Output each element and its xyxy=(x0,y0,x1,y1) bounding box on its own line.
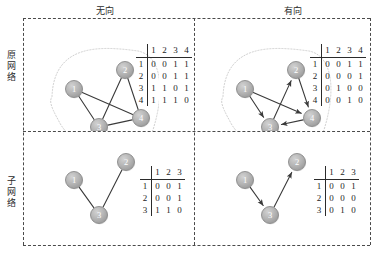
row-header-sub-network: 子 网 络 xyxy=(4,176,18,209)
matrix-column-header: 3 xyxy=(174,166,185,180)
matrix-cell: 0 xyxy=(322,82,334,94)
matrix-column-header: 2 xyxy=(163,166,174,180)
matrix-cell: 0 xyxy=(355,94,366,106)
column-header-undirected: 无向 xyxy=(60,4,150,17)
graph-node: 4 xyxy=(304,110,322,128)
row-header-original-char-2: 络 xyxy=(4,72,18,83)
matrix-cell: 1 xyxy=(159,82,170,94)
graph-edge xyxy=(79,97,94,120)
node-label: 1 xyxy=(243,84,247,94)
matrix-column-header: 1 xyxy=(326,166,338,180)
matrix-cell: 0 xyxy=(355,82,366,94)
matrix-row-header: 3 xyxy=(310,82,322,94)
matrix-column-header: 3 xyxy=(348,166,359,180)
matrix-cell: 0 xyxy=(174,204,185,216)
matrix-row: 30100 xyxy=(310,82,366,94)
matrix-cell: 1 xyxy=(337,204,348,216)
frame-border-right xyxy=(370,18,371,245)
matrix-cell: 0 xyxy=(337,180,348,193)
matrix-cell: 0 xyxy=(152,180,164,193)
matrix-cell: 0 xyxy=(148,58,160,71)
graph-node: 4 xyxy=(133,110,151,128)
node-label: 3 xyxy=(97,210,101,220)
graph-node: 3 xyxy=(262,207,280,225)
matrix-cell: 0 xyxy=(152,192,164,204)
matrix-cell: 1 xyxy=(181,58,192,71)
matrix-column-header: 3 xyxy=(344,44,355,58)
matrix-cell: 0 xyxy=(326,192,338,204)
matrix-cell: 1 xyxy=(152,204,164,216)
graph-node: 2 xyxy=(289,154,307,172)
matrix-row: 41110 xyxy=(136,94,192,106)
frame-divider-vertical xyxy=(194,18,195,245)
frame-border-bottom xyxy=(23,245,370,246)
matrix-column-header: 4 xyxy=(355,44,366,58)
matrix-row-header: 2 xyxy=(140,192,152,204)
figure-network-adjacency-matrices: 无向 有向 原 网 络 子 网 络 1234 1234 123 123 1234… xyxy=(0,0,387,259)
node-label: 1 xyxy=(243,175,247,185)
matrix-cell: 0 xyxy=(148,70,160,82)
matrix-row: 1001 xyxy=(314,180,359,193)
matrix-row-header: 3 xyxy=(140,204,152,216)
node-label: 2 xyxy=(124,157,128,167)
matrix-corner-cell xyxy=(314,166,326,180)
matrix-cell: 0 xyxy=(344,82,355,94)
matrix-row: 1001 xyxy=(140,180,185,193)
graph-arrow xyxy=(281,120,303,125)
matrix-cell: 1 xyxy=(163,204,174,216)
matrix-cell: 0 xyxy=(159,70,170,82)
graph-node: 2 xyxy=(288,62,306,80)
matrix-cell: 0 xyxy=(181,94,192,106)
graph-node: 3 xyxy=(91,207,109,225)
graph-sub-undirected: 123 xyxy=(24,130,159,240)
graph-edge xyxy=(103,170,122,207)
matrix-cell: 0 xyxy=(333,94,344,106)
matrix-column-header: 2 xyxy=(333,44,344,58)
matrix-row: 10011 xyxy=(310,58,366,71)
graph-edge xyxy=(108,120,132,125)
matrix-row: 31101 xyxy=(136,82,192,94)
matrix-corner-cell xyxy=(310,44,322,58)
matrix-row-header: 1 xyxy=(140,180,152,193)
matrix-cell: 0 xyxy=(333,58,344,71)
matrix-cell: 1 xyxy=(159,94,170,106)
matrix-cell: 1 xyxy=(174,180,185,193)
row-header-original-network: 原 网 络 xyxy=(4,50,18,83)
matrix-row-header: 4 xyxy=(136,94,148,106)
matrix-row-header: 2 xyxy=(136,70,148,82)
matrix-column-header: 3 xyxy=(170,44,181,58)
matrix-column-header: 1 xyxy=(322,44,334,58)
adjacency-matrix-original-undirected: 123410011200113110141110 xyxy=(136,44,192,106)
node-label: 3 xyxy=(268,210,272,220)
matrix-row: 3010 xyxy=(314,204,359,216)
matrix-row-header: 1 xyxy=(136,58,148,71)
matrix-row-header: 2 xyxy=(314,192,326,204)
graph-edge xyxy=(103,78,122,119)
matrix-cell: 0 xyxy=(326,204,338,216)
graph-arrow xyxy=(250,187,263,205)
matrix-cell: 0 xyxy=(322,58,334,71)
node-label: 2 xyxy=(295,157,299,167)
matrix-corner-cell xyxy=(140,166,152,180)
matrix-cell: 0 xyxy=(322,70,334,82)
matrix-cell: 1 xyxy=(170,94,181,106)
node-label: 1 xyxy=(72,84,76,94)
matrix-row-header: 4 xyxy=(310,94,322,106)
matrix-row: 2000 xyxy=(314,192,359,204)
matrix-column-header: 1 xyxy=(152,166,164,180)
matrix-cell: 1 xyxy=(148,94,160,106)
matrix-cell: 1 xyxy=(355,58,366,71)
graph-edge xyxy=(79,187,94,207)
matrix-cell: 0 xyxy=(344,70,355,82)
graph-node: 1 xyxy=(66,81,84,99)
row-header-sub-char-0: 子 xyxy=(4,176,18,187)
matrix-row: 20001 xyxy=(310,70,366,82)
graph-node: 2 xyxy=(117,62,135,80)
matrix-row-header: 2 xyxy=(310,70,322,82)
graph-arrow xyxy=(274,81,291,119)
graph-arrow xyxy=(250,97,264,118)
matrix-cell: 1 xyxy=(170,70,181,82)
matrix-cell: 1 xyxy=(344,58,355,71)
row-header-sub-char-2: 络 xyxy=(4,198,18,209)
matrix-cell: 0 xyxy=(333,70,344,82)
